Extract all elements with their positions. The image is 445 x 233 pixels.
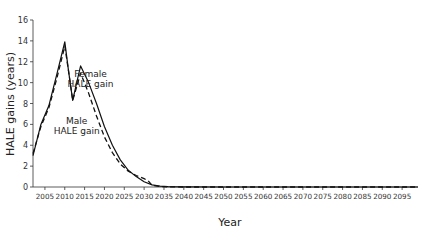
- x-tick-label: 2015: [75, 192, 93, 201]
- x-tick-label: 2035: [155, 192, 173, 201]
- x-tick-label: 2025: [115, 192, 133, 201]
- y-axis-label: HALE gains (years): [4, 52, 17, 156]
- x-tick-label: 2010: [56, 192, 75, 201]
- y-tick-label: 16: [18, 16, 28, 25]
- male-annotation: MaleHALE gain: [54, 116, 100, 136]
- female-annotation: FemaleHALE gain: [68, 69, 114, 89]
- x-tick-label: 2040: [175, 192, 194, 201]
- x-tick-label: 2055: [234, 192, 252, 201]
- x-tick-label: 2020: [95, 192, 114, 201]
- y-tick-label: 6: [23, 120, 28, 129]
- y-tick-label: 4: [23, 141, 28, 150]
- y-tick-label: 12: [18, 58, 28, 67]
- x-tick-label: 2080: [333, 192, 352, 201]
- y-tick-label: 2: [23, 162, 28, 171]
- x-axis-label: Year: [217, 216, 242, 229]
- female-hale-line: [33, 42, 418, 187]
- x-tick-label: 2050: [214, 192, 233, 201]
- male-hale-line: [33, 46, 418, 187]
- y-tick-label: 14: [18, 37, 28, 46]
- y-tick-label: 0: [23, 183, 28, 192]
- x-tick-label: 2060: [254, 192, 273, 201]
- x-tick-label: 2070: [294, 192, 313, 201]
- x-tick-label: 2090: [373, 192, 392, 201]
- x-tick-label: 2075: [314, 192, 332, 201]
- x-tick-label: 2030: [135, 192, 154, 201]
- hale-gains-chart: 0246810121416 20052010201520202025203020…: [0, 0, 445, 233]
- x-tick-label: 2095: [393, 192, 411, 201]
- x-tick-label: 2085: [353, 192, 371, 201]
- x-axis: 2005201020152020202520302035204020452050…: [33, 187, 418, 201]
- series-lines: [33, 42, 418, 187]
- y-axis: 0246810121416: [18, 16, 33, 192]
- x-tick-label: 2045: [195, 192, 213, 201]
- y-tick-label: 8: [23, 100, 28, 109]
- x-tick-label: 2065: [274, 192, 292, 201]
- y-tick-label: 10: [18, 79, 28, 88]
- x-tick-label: 2005: [36, 192, 54, 201]
